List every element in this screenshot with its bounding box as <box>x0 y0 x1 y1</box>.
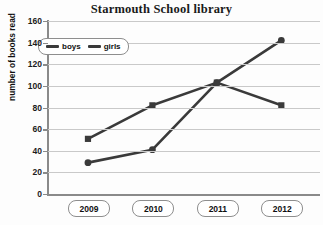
line-chart: Starmouth School library number of books… <box>0 0 323 225</box>
y-axis-tick-mark <box>43 86 48 87</box>
gridline <box>48 108 320 109</box>
y-axis-tick-mark <box>43 129 48 130</box>
gridline <box>48 86 320 87</box>
chart-legend: boys girls <box>38 38 129 55</box>
series-line-girls <box>88 40 281 162</box>
data-point-girls-2009 <box>85 159 92 166</box>
series-line-boys <box>88 83 281 139</box>
x-axis-line <box>47 194 320 196</box>
y-axis-tick-label: 0 <box>16 189 42 199</box>
legend-entry-boys: boys <box>46 42 81 51</box>
x-axis-tick-text: 2011 <box>209 204 227 214</box>
gridline <box>48 172 320 173</box>
legend-swatch-boys <box>46 45 59 48</box>
x-axis-tick-label-2012: 2012 <box>261 200 303 217</box>
y-axis-tick-mark <box>43 172 48 173</box>
legend-swatch-girls <box>88 45 101 48</box>
y-axis-tick-label: 160 <box>16 16 42 26</box>
y-axis-tick-mark <box>43 21 48 22</box>
gridline <box>48 21 320 22</box>
chart-title: Starmouth School library <box>0 2 323 17</box>
gridline <box>48 151 320 152</box>
x-axis-tick-label-2011: 2011 <box>197 200 239 217</box>
legend-entry-girls: girls <box>88 42 121 51</box>
data-point-boys-2009 <box>85 136 91 142</box>
y-axis-tick-label: 60 <box>16 124 42 134</box>
y-axis-tick-mark <box>43 151 48 152</box>
y-axis-tick-label: 120 <box>16 59 42 69</box>
y-axis-tick-mark <box>43 108 48 109</box>
y-axis-tick-label: 80 <box>16 103 42 113</box>
y-axis-tick-mark <box>43 194 48 195</box>
y-axis-tick-mark <box>43 64 48 65</box>
x-axis-tick-text: 2012 <box>273 204 292 214</box>
data-point-girls-2010 <box>149 146 156 153</box>
y-axis-tick-mark <box>43 43 48 44</box>
gridline <box>48 64 320 65</box>
x-axis-tick-label-2009: 2009 <box>68 200 110 217</box>
legend-label-boys: boys <box>62 42 81 51</box>
x-axis-tick-text: 2009 <box>79 204 98 214</box>
legend-label-girls: girls <box>104 42 121 51</box>
x-axis-tick-text: 2010 <box>144 204 163 214</box>
y-axis-tick-label: 40 <box>16 146 42 156</box>
x-axis-tick-label-2010: 2010 <box>132 200 174 217</box>
y-axis-tick-label: 100 <box>16 81 42 91</box>
gridline <box>48 129 320 130</box>
y-axis-tick-label: 20 <box>16 167 42 177</box>
y-axis-tick-label: 140 <box>16 38 42 48</box>
